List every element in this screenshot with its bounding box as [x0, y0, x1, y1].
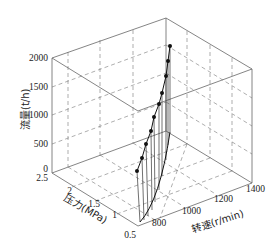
x-tick-1000: 1000 [182, 206, 201, 216]
chart-3d: 2000 1500 1000 500 0 流量(t/h) 2.5 2 1.5 1… [0, 0, 279, 245]
y-axis-label: 压力(MPa) [62, 191, 110, 226]
z-tick-500: 500 [34, 139, 49, 149]
z-axis-ticks: 2000 1500 1000 500 0 [29, 53, 48, 174]
z-tick-1000: 1000 [29, 110, 48, 120]
z-axis-label: 流量(t/h) [19, 88, 31, 130]
y-tick-0.5: 0.5 [124, 230, 136, 240]
x-tick-1400: 1400 [246, 184, 265, 194]
y-tick-1: 1 [112, 210, 117, 220]
y-tick-2.5: 2.5 [36, 173, 48, 183]
x-tick-800: 800 [152, 218, 167, 228]
z-tick-1500: 1500 [29, 82, 48, 92]
x-tick-1200: 1200 [214, 194, 233, 204]
z-tick-2000: 2000 [29, 53, 48, 63]
data-series [135, 44, 172, 222]
